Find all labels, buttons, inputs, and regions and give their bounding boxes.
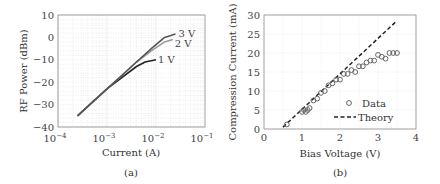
panel-b-y-tick-labels: 302520151050: [247, 10, 260, 135]
series-line-1v: [78, 60, 157, 116]
x-tick-label: 3: [375, 132, 381, 143]
legend-data-marker-icon: [347, 101, 352, 106]
panel-a-annotations: 3 V2 V1 V: [158, 28, 196, 65]
panel-a-rf-power-chart: 100−10−20−30−40 10−410−310−210−1 3 V2 V1…: [18, 10, 214, 179]
panel-b-x-tick-labels: 01234: [261, 132, 419, 143]
panel-a-x-axis-label: Current (A): [102, 147, 160, 158]
y-tick-label: 30: [247, 10, 260, 21]
panel-a-y-axis-label: RF Power (dBm): [18, 29, 29, 113]
panel-b-y-axis-label: Compression Current (mA): [227, 3, 238, 140]
x-tick-label: 10−1: [190, 132, 213, 144]
y-tick-label: −20: [33, 77, 54, 88]
y-tick-label: 25: [247, 29, 260, 40]
x-tick-label: 10−2: [141, 132, 164, 144]
y-tick-label: 20: [247, 48, 260, 59]
x-tick-label: 1: [299, 132, 305, 143]
y-tick-label: 10: [41, 10, 54, 21]
y-tick-label: −40: [33, 122, 54, 133]
x-tick-label: 2: [337, 132, 343, 143]
panel-b-caption: (b): [333, 167, 347, 178]
x-tick-label: 10−4: [43, 132, 67, 144]
y-tick-label: 5: [254, 105, 260, 116]
panel-b-x-axis-label: Bias Voltage (V): [300, 148, 381, 159]
panel-b-compression-current-chart: 302520151050 01234 Data Theory Compressi…: [227, 3, 419, 178]
panel-a-y-tick-labels: 100−10−20−30−40: [33, 10, 54, 133]
annotation-1v: 1 V: [158, 54, 176, 65]
y-tick-label: −30: [33, 99, 54, 110]
annotation-2v: 2 V: [175, 38, 193, 49]
legend-theory-label: Theory: [358, 112, 394, 123]
legend-data-label: Data: [362, 98, 386, 109]
y-tick-label: 10: [247, 86, 260, 97]
y-tick-label: −10: [33, 54, 54, 65]
x-tick-label: 4: [413, 132, 419, 143]
y-tick-label: 0: [48, 32, 54, 43]
x-tick-label: 10−3: [92, 132, 115, 144]
y-tick-label: 0: [254, 124, 260, 135]
x-tick-label: 0: [261, 132, 267, 143]
panel-a-caption: (a): [124, 167, 138, 178]
panel-a-x-tick-labels: 10−410−310−210−1: [43, 132, 213, 144]
figure: 100−10−20−30−40 10−410−310−210−1 3 V2 V1…: [0, 0, 440, 184]
panel-b-legend: Data Theory: [334, 98, 394, 123]
y-tick-label: 15: [247, 67, 260, 78]
